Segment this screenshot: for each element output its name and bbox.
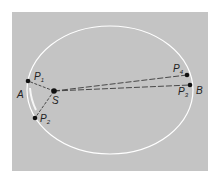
point-s [51,88,57,94]
point-p4 [185,73,190,78]
label-p1: P1 [34,71,44,83]
radius-s-p4 [54,75,187,91]
point-p3 [188,83,193,88]
label-s: S [52,95,59,106]
kepler-orbit-diagram: A P1 S P2 P4 P3 B [0,0,220,182]
label-a: A [16,89,24,100]
label-p3: P3 [178,86,189,98]
label-b: B [196,85,203,96]
point-p2 [33,116,38,121]
swept-area-highlight [30,88,36,110]
label-p2: P2 [40,113,51,125]
point-p1 [26,79,31,84]
label-p4: P4 [173,63,184,75]
radius-s-p3 [54,85,190,91]
